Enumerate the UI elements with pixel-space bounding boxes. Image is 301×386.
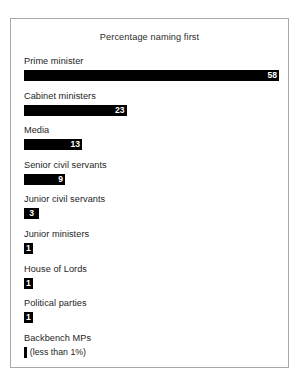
bar-value-label: 3 — [24, 208, 39, 219]
bar-row: Senior civil servants9 — [24, 159, 279, 194]
bar-category-label: Junior ministers — [24, 228, 279, 240]
bar-row: Cabinet ministers23 — [24, 90, 279, 125]
bar-row: Media13 — [24, 124, 279, 159]
bar-value-label: 9 — [58, 174, 65, 185]
bar-row: Prime minister58 — [24, 55, 279, 90]
bar-track: 58 — [24, 70, 279, 81]
bar-row: Junior ministers1 — [24, 228, 279, 263]
bar-track: 1 — [24, 312, 279, 323]
bar-track: 1 — [24, 278, 279, 289]
bar-category-label: House of Lords — [24, 263, 279, 275]
bar-category-label: Junior civil servants — [24, 193, 279, 205]
bar-note-label: (less than 1%) — [30, 347, 86, 358]
bar-category-label: Cabinet ministers — [24, 90, 279, 102]
bar-value-label: 1 — [24, 278, 33, 289]
bar-row: Junior civil servants3 — [24, 193, 279, 228]
bar-track: 3 — [24, 208, 279, 219]
bar-value-label: 13 — [71, 139, 83, 150]
bar-track: 9 — [24, 174, 279, 185]
bar-track: 23 — [24, 105, 279, 116]
bar-row: Backbench MPs(less than 1%) — [24, 332, 279, 367]
bar-row: Political parties1 — [24, 297, 279, 332]
bar-fill: 1 — [24, 278, 33, 289]
bar-value-label: 1 — [24, 312, 33, 323]
bar-fill — [24, 347, 27, 358]
bar-fill: 3 — [24, 208, 39, 219]
bar-track: (less than 1%) — [24, 347, 279, 358]
bar-track: 13 — [24, 139, 279, 150]
bar-category-label: Media — [24, 124, 279, 136]
bar-row: House of Lords1 — [24, 263, 279, 298]
bar-fill: 1 — [24, 243, 33, 254]
chart-figure: Percentage naming first Prime minister58… — [10, 18, 289, 368]
bar-chart-plot-area: Prime minister58Cabinet ministers23Media… — [24, 55, 279, 361]
bar-category-label: Political parties — [24, 297, 279, 309]
bar-category-label: Backbench MPs — [24, 332, 279, 344]
bar-category-label: Prime minister — [24, 55, 279, 67]
bar-track: 1 — [24, 243, 279, 254]
bar-fill: 9 — [24, 174, 65, 185]
bar-fill: 58 — [24, 70, 279, 81]
bar-fill: 1 — [24, 312, 33, 323]
bar-category-label: Senior civil servants — [24, 159, 279, 171]
bar-fill: 23 — [24, 105, 127, 116]
bar-value-label: 1 — [24, 243, 33, 254]
bar-fill: 13 — [24, 139, 82, 150]
bar-value-label: 23 — [115, 105, 127, 116]
chart-title: Percentage naming first — [11, 32, 288, 42]
bar-value-label: 58 — [267, 70, 279, 81]
